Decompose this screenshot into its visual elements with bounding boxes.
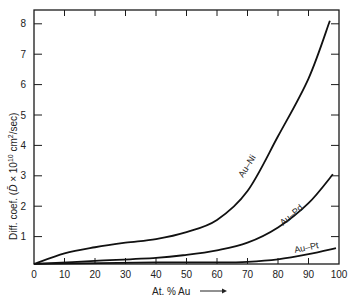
- curve-label-au-pd: Au–Pd: [278, 202, 305, 227]
- diffusion-coefficient-chart: 0102030405060708090100 12345678 Au–Ni Au…: [0, 0, 349, 303]
- data-curves: [34, 21, 336, 264]
- x-tick-label: 50: [181, 269, 193, 280]
- x-tick-label: 90: [303, 269, 315, 280]
- y-tick-label: 3: [20, 170, 26, 181]
- y-tick-label: 2: [20, 201, 26, 212]
- y-tick-label: 5: [20, 110, 26, 121]
- x-axis-ticks: 0102030405060708090100: [31, 10, 348, 280]
- y-tick-label: 4: [20, 140, 26, 151]
- curve-au-ni: [34, 21, 330, 264]
- y-tick-label: 8: [20, 18, 26, 29]
- x-tick-label: 60: [211, 269, 223, 280]
- y-tick-label: 1: [20, 231, 26, 242]
- x-tick-label: 30: [120, 269, 132, 280]
- x-axis-title: At. % Au: [152, 286, 190, 297]
- x-tick-label: 20: [89, 269, 101, 280]
- x-axis-arrow-icon: [200, 289, 227, 294]
- x-tick-label: 70: [242, 269, 254, 280]
- y-tick-label: 6: [20, 79, 26, 90]
- curve-label-au-ni: Au–Ni: [236, 153, 257, 179]
- x-tick-label: 40: [150, 269, 162, 280]
- x-tick-label: 80: [272, 269, 284, 280]
- y-axis-title: Diff. coef. (D̄ × 1010 cm2/sec): [7, 113, 19, 240]
- plot-frame: [34, 10, 339, 264]
- y-tick-label: 7: [20, 49, 26, 60]
- x-tick-label: 10: [59, 269, 71, 280]
- x-tick-label: 0: [31, 269, 37, 280]
- x-tick-label: 100: [331, 269, 348, 280]
- plot-border: [34, 10, 339, 264]
